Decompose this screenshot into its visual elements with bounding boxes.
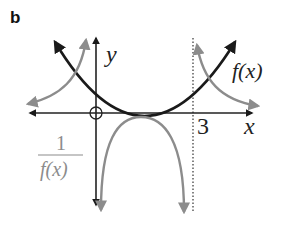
reciprocal-label-denominator: f(x) bbox=[40, 158, 68, 181]
y-axis-label: y bbox=[104, 41, 117, 67]
x-axis-label: x bbox=[243, 113, 255, 139]
reciprocal-left-branch bbox=[28, 40, 86, 104]
reciprocal-middle-branch bbox=[101, 117, 184, 212]
graph-figure: b y x 3 f(x) 1 f(x) bbox=[0, 0, 294, 226]
f-curve bbox=[55, 42, 235, 116]
reciprocal-label-numerator: 1 bbox=[56, 132, 66, 154]
x-tick-3: 3 bbox=[197, 113, 209, 139]
panel-label: b bbox=[10, 8, 20, 27]
f-curve-label: f(x) bbox=[232, 58, 263, 83]
